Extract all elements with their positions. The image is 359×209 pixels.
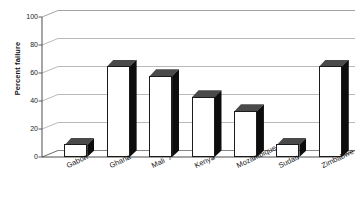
x-axis-category-labels: GabonGhanaMaliKenyaMozambiqueSudanZimbab… [0,0,359,209]
x-label-gabon: Gabon [65,152,89,170]
x-label-sudan: Sudan [277,152,300,170]
x-label-mozambique: Mozambique [235,143,278,170]
x-label-kenya: Kenya [193,153,216,170]
x-label-zimbabwe: Zimbabwe [320,147,355,170]
x-label-mali: Mali [150,156,166,170]
x-label-ghana: Ghana [108,152,132,170]
bar-chart: Percent failure 100 80 60 40 20 0 [0,0,359,209]
